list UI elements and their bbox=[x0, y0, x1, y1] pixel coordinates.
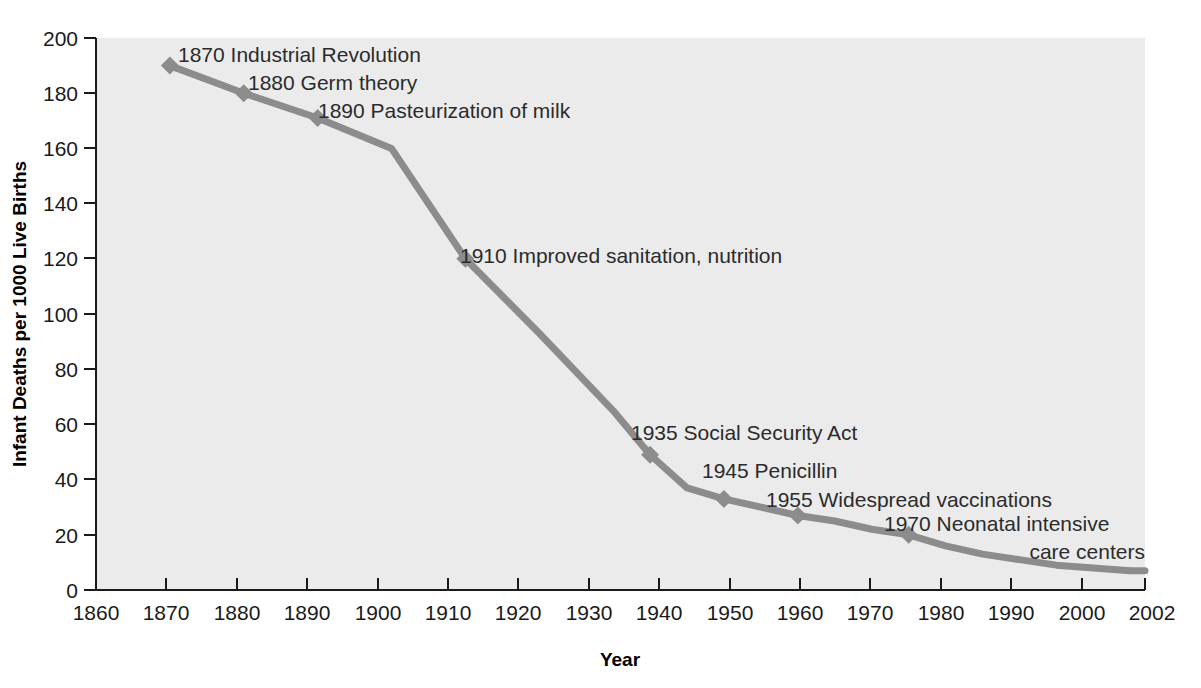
x-tick-label-1960: 1960 bbox=[777, 601, 824, 624]
x-tick-label-1910: 1910 bbox=[425, 601, 472, 624]
y-axis-title: Infant Deaths per 1000 Live Births bbox=[9, 161, 30, 467]
y-tick-label-60: 60 bbox=[55, 413, 78, 436]
annotation-vaccinations: 1955 Widespread vaccinations bbox=[766, 488, 1052, 511]
x-tick-label-1860: 1860 bbox=[73, 601, 120, 624]
annotation-social-security: 1935 Social Security Act bbox=[631, 421, 858, 444]
x-tick-label-1940: 1940 bbox=[636, 601, 683, 624]
annotation-penicillin: 1945 Penicillin bbox=[702, 459, 837, 482]
y-tick-label-20: 20 bbox=[55, 524, 78, 547]
annotation-neonatal-line1: 1970 Neonatal intensive bbox=[884, 512, 1109, 535]
x-tick-label-1890: 1890 bbox=[284, 601, 331, 624]
annotation-sanitation: 1910 Improved sanitation, nutrition bbox=[460, 244, 782, 267]
y-tick-label-180: 180 bbox=[43, 82, 78, 105]
x-axis-title: Year bbox=[600, 649, 641, 670]
y-tick-label-100: 100 bbox=[43, 303, 78, 326]
y-tick-label-140: 140 bbox=[43, 192, 78, 215]
y-tick-label-0: 0 bbox=[66, 579, 78, 602]
x-tick-label-1900: 1900 bbox=[355, 601, 402, 624]
chart-figure: 200 180 160 140 120 100 80 60 40 20 0 In… bbox=[0, 0, 1201, 688]
x-tick-label-1990: 1990 bbox=[988, 601, 1035, 624]
annotation-pasteurization: 1890 Pasteurization of milk bbox=[318, 99, 571, 122]
line-chart: 200 180 160 140 120 100 80 60 40 20 0 In… bbox=[0, 0, 1201, 688]
x-tick-label-1880: 1880 bbox=[214, 601, 261, 624]
x-tick-label-1970: 1970 bbox=[847, 601, 894, 624]
y-tick-label-120: 120 bbox=[43, 247, 78, 270]
x-tick-label-2000: 2000 bbox=[1059, 601, 1106, 624]
annotation-neonatal-line2: care centers bbox=[1029, 540, 1145, 563]
x-tick-label-2002: 2002 bbox=[1129, 601, 1176, 624]
x-tick-label-1870: 1870 bbox=[143, 601, 190, 624]
x-tick-label-1950: 1950 bbox=[707, 601, 754, 624]
x-tick-label-1980: 1980 bbox=[918, 601, 965, 624]
annotation-industrial-revolution: 1870 Industrial Revolution bbox=[178, 43, 421, 66]
x-tick-label-1920: 1920 bbox=[495, 601, 542, 624]
y-tick-label-80: 80 bbox=[55, 358, 78, 381]
annotation-germ-theory: 1880 Germ theory bbox=[248, 71, 418, 94]
x-tick-label-1930: 1930 bbox=[566, 601, 613, 624]
y-tick-label-200: 200 bbox=[43, 27, 78, 50]
y-tick-label-160: 160 bbox=[43, 137, 78, 160]
y-tick-label-40: 40 bbox=[55, 468, 78, 491]
